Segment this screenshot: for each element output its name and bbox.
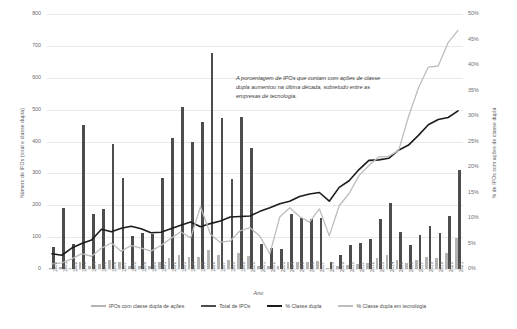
y-axis-right-title: % de IPOs com ações de classe dupla xyxy=(491,93,497,213)
x-axis-tick-label: 2015 xyxy=(400,262,405,272)
plot-area: 0100200300400500600700800 0%5%10%15%20%2… xyxy=(47,14,463,269)
x-axis-tick-label: 2005 xyxy=(301,262,306,272)
x-axis-tick-label: 1991 xyxy=(163,262,168,272)
x-axis-tick-label: 1993 xyxy=(183,262,188,272)
legend-item[interactable]: Total de IPOs xyxy=(201,303,250,309)
x-axis-tick-label: 1990 xyxy=(153,262,158,272)
y-axis-left-tick-label: 800 xyxy=(1,11,41,16)
y-axis-left-tick-label: 200 xyxy=(1,202,41,207)
legend-swatch xyxy=(338,305,353,307)
x-axis-tick-label: 2014 xyxy=(391,262,396,272)
legend-item[interactable]: IPOs com classe dupla de ações xyxy=(91,303,185,309)
y-axis-right-tick-label: 40% xyxy=(468,62,508,67)
x-axis-tick-label: 2008 xyxy=(331,262,336,272)
legend-item[interactable]: % Classe dupla xyxy=(267,303,321,309)
y-axis-left-tick-label: 600 xyxy=(1,75,41,80)
x-axis-tick-label: 1982 xyxy=(74,262,79,272)
legend-swatch xyxy=(201,305,216,308)
y-axis-right-tick-label: 30% xyxy=(468,113,508,118)
line-pct-dual-class-tech xyxy=(52,30,458,264)
x-axis-tick-label: 1995 xyxy=(202,262,207,272)
legend-swatch xyxy=(267,305,282,307)
x-axis-tick-label: 1981 xyxy=(64,262,69,272)
x-axis-tick-label: 2007 xyxy=(321,262,326,272)
x-axis-title: Ano xyxy=(0,290,517,296)
x-axis-tick-label: 1987 xyxy=(123,262,128,272)
x-axis-tick-label: 2003 xyxy=(282,262,287,272)
y-axis-right-tick-label: 15% xyxy=(468,190,508,195)
x-axis-tick-label: 2013 xyxy=(381,262,386,272)
legend-swatch xyxy=(91,305,106,308)
x-axis-tick-label: 2002 xyxy=(272,262,277,272)
legend-item[interactable]: % Classe dupla em tecnologia xyxy=(338,303,426,309)
x-axis-tick-label: 1983 xyxy=(83,262,88,272)
x-axis-tick-label: 2020 xyxy=(450,262,455,272)
y-axis-right-tick-label: 10% xyxy=(468,215,508,220)
y-axis-right-tick-label: 25% xyxy=(468,139,508,144)
y-axis-left-tick-label: 700 xyxy=(1,43,41,48)
y-axis-right-tick-label: 5% xyxy=(468,241,508,246)
y-axis-left-tick-label: 300 xyxy=(1,170,41,175)
x-axis-tick-label: 1989 xyxy=(143,262,148,272)
x-axis-tick-label: 1988 xyxy=(133,262,138,272)
chart-annotation: A porcentagem de IPOs que contam com açõ… xyxy=(236,74,394,102)
x-axis-tick-label: 2004 xyxy=(291,262,296,272)
x-axis-tick-label: 1992 xyxy=(173,262,178,272)
chart-legend: IPOs com classe dupla de açõesTotal de I… xyxy=(0,303,517,309)
legend-label: Total de IPOs xyxy=(219,303,250,309)
y-axis-right-tick-label: 35% xyxy=(468,88,508,93)
legend-label: % Classe dupla xyxy=(285,303,321,309)
x-axis-tick-label: 1994 xyxy=(192,262,197,272)
x-axis-tick-label: 2012 xyxy=(371,262,376,272)
x-axis-tick-label: 2000 xyxy=(252,262,257,272)
x-axis-tick-label: 2021 xyxy=(460,262,465,272)
x-axis-tick-label: 1986 xyxy=(113,262,118,272)
x-axis-tick-label: 1997 xyxy=(222,262,227,272)
x-axis-tick-label: 1984 xyxy=(93,262,98,272)
x-axis-tick-label: 1999 xyxy=(242,262,247,272)
x-axis-tick-label: 1998 xyxy=(232,262,237,272)
x-axis-tick-label: 2017 xyxy=(420,262,425,272)
legend-label: % Classe dupla em tecnologia xyxy=(356,303,426,309)
x-axis-tick-label: 1985 xyxy=(103,262,108,272)
x-axis-tick-label: 2016 xyxy=(410,262,415,272)
x-axis-tick-label: 2018 xyxy=(430,262,435,272)
line-pct-dual-class xyxy=(52,111,458,255)
x-axis-tick-label: 2001 xyxy=(262,262,267,272)
y-axis-right-tick-label: 50% xyxy=(468,11,508,16)
x-axis-tick-label: 2019 xyxy=(440,262,445,272)
x-axis-tick-label: 2009 xyxy=(341,262,346,272)
x-axis-tick-label: 1980 xyxy=(54,262,59,272)
y-axis-left-tick-label: 0 xyxy=(1,266,41,271)
x-axis-tick-label: 2006 xyxy=(311,262,316,272)
y-axis-left-tick-label: 100 xyxy=(1,234,41,239)
y-axis-left-tick-label: 500 xyxy=(1,107,41,112)
y-axis-right-tick-label: 20% xyxy=(468,164,508,169)
y-axis-left-tick-label: 400 xyxy=(1,139,41,144)
legend-label: IPOs com classe dupla de ações xyxy=(109,303,185,309)
y-axis-right-tick-label: 45% xyxy=(468,37,508,42)
dual-class-ipo-chart: Número de IPOs (total e classe dupla) % … xyxy=(0,0,517,329)
x-axis-tick-label: 2011 xyxy=(361,262,366,272)
y-axis-right-tick-label: 0% xyxy=(468,266,508,271)
x-axis-tick-label: 2010 xyxy=(351,262,356,272)
x-axis-tick-label: 1996 xyxy=(212,262,217,272)
line-series-group xyxy=(47,14,463,269)
